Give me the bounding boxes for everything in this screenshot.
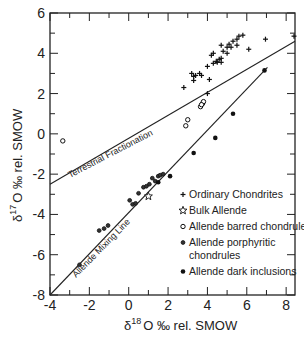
point-allende-porphyritic-chondrules xyxy=(150,176,154,180)
y-tick-label: -4 xyxy=(33,206,46,222)
legend-label-continued: chondrules xyxy=(189,249,240,261)
point-allende-dark-inclusions xyxy=(156,180,161,185)
point-allende-dark-inclusions xyxy=(262,68,267,73)
legend-label: Allende barred chondrules xyxy=(189,220,304,232)
legend-label: Ordinary Chondrites xyxy=(189,188,283,200)
x-tick-label: 0 xyxy=(125,297,133,313)
x-tick-label: -2 xyxy=(83,297,96,313)
legend-marker-bulk-allende xyxy=(179,206,187,214)
oxygen-isotope-chart: -4-202468-8-6-4-20246 Terrestrial Fracti… xyxy=(0,0,304,341)
y-tick-label: -8 xyxy=(33,287,46,303)
y-tick-label: -6 xyxy=(33,247,46,263)
point-allende-barred-chondrules xyxy=(199,102,203,106)
point-ordinary-chondrites xyxy=(191,78,196,83)
legend-item-bulk-allende: Bulk Allende xyxy=(179,204,247,216)
point-allende-porphyritic-chondrules xyxy=(161,172,165,176)
point-ordinary-chondrites xyxy=(207,77,212,82)
point-ordinary-chondrites xyxy=(263,37,268,42)
y-axis-title: δ17O ‰ rel. SMOW xyxy=(8,108,25,222)
point-ordinary-chondrites xyxy=(246,47,251,52)
point-allende-barred-chondrules xyxy=(184,124,188,128)
point-ordinary-chondrites xyxy=(181,85,186,90)
legend-marker-allende-dark-inclusions xyxy=(181,269,186,274)
plot-border xyxy=(50,13,295,295)
y-axis-title-delta: δ xyxy=(10,215,25,222)
y-tick-label: 4 xyxy=(37,45,45,61)
x-tick-label: 4 xyxy=(204,297,212,313)
point-allende-porphyritic-chondrules xyxy=(134,201,138,205)
point-allende-dark-inclusions xyxy=(168,174,173,179)
point-allende-dark-inclusions xyxy=(213,136,218,141)
point-bulk-allende xyxy=(144,192,152,200)
point-ordinary-chondrites xyxy=(219,43,224,48)
legend: Ordinary ChondritesBulk AllendeAllende b… xyxy=(179,188,304,277)
legend-label: Allende porphyritic xyxy=(189,236,275,248)
y-axis-title-rest: O ‰ rel. SMOW xyxy=(10,108,25,203)
terrestrial-line-label: Terrestrial Fractionation xyxy=(66,127,154,179)
legend-label: Allende dark inclusions xyxy=(189,265,296,277)
x-tick-label: 8 xyxy=(282,297,290,313)
x-tick-label: 6 xyxy=(243,297,251,313)
x-axis-title-sup: 18 xyxy=(131,316,141,326)
point-ordinary-chondrites xyxy=(205,64,210,69)
legend-marker-allende-barred-chondrules xyxy=(181,224,185,228)
y-tick-label: 2 xyxy=(37,86,45,102)
legend-item-allende-dark-inclusions: Allende dark inclusions xyxy=(181,265,297,277)
point-ordinary-chondrites xyxy=(240,33,245,38)
legend-label: Bulk Allende xyxy=(189,204,247,216)
point-allende-porphyritic-chondrules xyxy=(137,191,141,195)
legend-item-allende-porphyritic-chondrules: Allende porphyriticchondrules xyxy=(181,236,275,261)
y-tick-label: -2 xyxy=(33,166,46,182)
x-tick-label: 2 xyxy=(164,297,172,313)
legend-item-ordinary-chondrites: Ordinary Chondrites xyxy=(181,188,283,200)
point-ordinary-chondrites xyxy=(292,34,297,39)
point-allende-porphyritic-chondrules xyxy=(106,224,110,228)
x-axis-title: δ18O ‰ rel. SMOW xyxy=(124,316,238,333)
point-allende-dark-inclusions xyxy=(191,151,196,156)
point-allende-porphyritic-chondrules xyxy=(97,229,101,233)
point-allende-porphyritic-chondrules xyxy=(128,198,132,202)
x-axis-title-delta: δ xyxy=(124,318,131,333)
y-tick-label: 6 xyxy=(37,5,45,21)
y-axis-title-sup: 17 xyxy=(8,205,18,215)
x-tick-label: -4 xyxy=(44,297,57,313)
point-ordinary-chondrites xyxy=(234,43,239,48)
y-tick-label: 0 xyxy=(37,126,45,142)
legend-marker-allende-porphyritic-chondrules xyxy=(181,241,185,245)
point-allende-barred-chondrules xyxy=(186,118,190,122)
point-allende-barred-chondrules xyxy=(61,139,65,143)
point-allende-porphyritic-chondrules xyxy=(102,227,106,231)
legend-item-allende-barred-chondrules: Allende barred chondrules xyxy=(181,220,304,232)
legend-marker-ordinary-chondrites xyxy=(181,192,186,197)
mixing-line-label: Allende Mixing Line xyxy=(70,217,132,280)
point-allende-dark-inclusions xyxy=(231,111,236,116)
plot-frame xyxy=(50,13,295,295)
x-axis-title-rest: O ‰ rel. SMOW xyxy=(143,318,238,333)
point-allende-porphyritic-chondrules xyxy=(145,184,149,188)
